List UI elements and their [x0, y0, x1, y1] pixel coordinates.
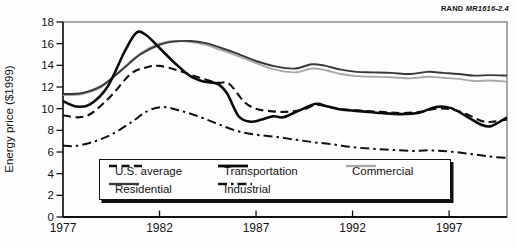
legend-swatch-transportation — [218, 163, 248, 169]
legend-swatch-industrial — [218, 181, 252, 187]
y-tick-label-8: 8 — [48, 124, 54, 136]
x-tick-label-1977: 1977 — [50, 221, 77, 235]
legend-item-us-average: U.S. average — [109, 163, 182, 179]
legend-swatch-us-average — [109, 163, 145, 169]
series-us_average-line — [63, 66, 507, 122]
legend-item-industrial: Industrial — [218, 181, 271, 197]
x-tick-label-1992: 1992 — [339, 221, 366, 235]
series-residential-line — [63, 41, 507, 94]
x-tick-label-1997: 1997 — [436, 221, 463, 235]
y-axis-title: Energy price ($1999) — [3, 65, 15, 173]
x-tick-label-1987: 1987 — [243, 221, 270, 235]
series-industrial-line — [63, 107, 507, 158]
report-id: RAND MR1616-2.4 — [441, 4, 509, 13]
y-tick-label-14: 14 — [41, 59, 54, 71]
legend-item-residential: Residential — [109, 181, 172, 197]
rand-brand: RAND — [441, 4, 463, 13]
y-tick-label-4: 4 — [48, 168, 55, 180]
y-tick-label-10: 10 — [41, 103, 54, 115]
plot-area: 02468101214161819771982198719921997 — [41, 16, 507, 235]
y-tick-label-18: 18 — [41, 16, 54, 28]
y-tick-label-12: 12 — [41, 81, 54, 93]
report-number: MR1616-2.4 — [466, 4, 509, 13]
y-tick-label-6: 6 — [48, 146, 54, 158]
legend-swatch-commercial — [346, 163, 376, 169]
legend: U.S. average Transportation Commercial R… — [99, 159, 451, 200]
y-tick-label-16: 16 — [41, 38, 54, 50]
y-tick-label-2: 2 — [48, 189, 54, 201]
plot-svg: 02468101214161819771982198719921997 Ener… — [0, 0, 516, 251]
legend-swatch-residential — [109, 181, 139, 187]
chart-canvas: 02468101214161819771982198719921997 Ener… — [0, 0, 516, 251]
legend-item-transportation: Transportation — [218, 163, 298, 179]
legend-item-commercial: Commercial — [346, 163, 413, 179]
x-tick-label-1982: 1982 — [146, 221, 173, 235]
